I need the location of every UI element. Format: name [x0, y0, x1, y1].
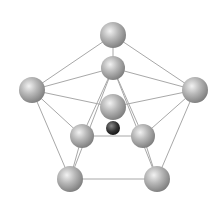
core-atom [106, 121, 120, 135]
atom-inner-right [131, 124, 155, 148]
atom-top [100, 22, 126, 48]
molecular-cluster-diagram [0, 0, 219, 208]
atom-bottom-right [144, 166, 170, 192]
atom-spheres [19, 22, 208, 192]
bond-right-bottom-right [157, 90, 195, 179]
atom-left [19, 77, 45, 103]
bond-top-right [113, 35, 195, 90]
atom-inner-left [70, 124, 94, 148]
bond-upper-mid-bottom-left [70, 68, 113, 179]
structure-canvas [0, 0, 219, 208]
bond-upper-mid-bottom-right [113, 68, 157, 179]
bond-top-left [32, 35, 113, 90]
atom-center [100, 94, 126, 120]
atom-right [182, 77, 208, 103]
bond-left-bottom-left [32, 90, 70, 179]
atom-upper-mid [101, 56, 125, 80]
atom-bottom-left [57, 166, 83, 192]
